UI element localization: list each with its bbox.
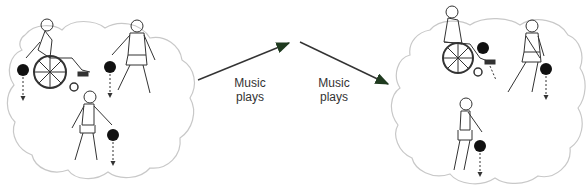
arrow-label-left: Music plays (220, 76, 280, 104)
label-line-1: Music (304, 76, 364, 90)
arrow-label-right: Music plays (304, 76, 364, 104)
left-group-cloud (7, 22, 194, 179)
label-line-2: plays (304, 90, 364, 104)
right-group-cloud (391, 19, 585, 184)
label-line-1: Music (220, 76, 280, 90)
diagram-canvas (0, 0, 586, 190)
label-line-2: plays (220, 90, 280, 104)
ball-icon (477, 42, 489, 54)
arrow-up-right (198, 43, 289, 80)
